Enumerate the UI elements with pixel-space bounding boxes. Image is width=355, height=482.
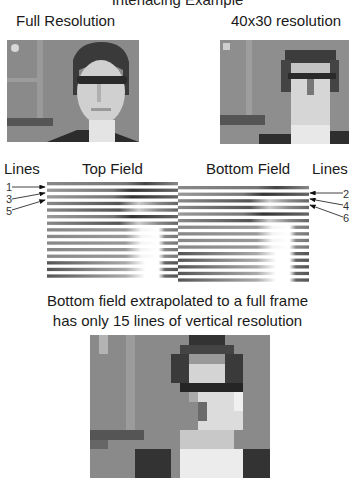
top-field-label: Top Field: [82, 160, 143, 177]
extrapolated-field-image: [90, 335, 270, 478]
top-field-stripes-graphic: [47, 182, 178, 282]
low-resolution-label: 40x30 resolution: [231, 12, 341, 29]
portrait-extrapolated-graphic: [90, 335, 270, 478]
caption-line-1: Bottom field extrapolated to a full fram…: [0, 291, 355, 310]
arrow-icon: [310, 205, 343, 217]
full-resolution-image: [7, 40, 139, 142]
caption-line-2: has only 15 lines of vertical resolution: [0, 311, 355, 330]
low-resolution-image: [220, 40, 349, 144]
lines-label-left: Lines: [4, 160, 40, 177]
bottom-field-image: [178, 186, 309, 286]
bottom-field-label: Bottom Field: [206, 160, 290, 177]
arrow-icon: [12, 193, 45, 199]
bottom-field-stripes-graphic: [178, 186, 309, 286]
left-line-arrows: [0, 180, 48, 220]
full-resolution-label: Full Resolution: [16, 12, 115, 29]
top-field-image: [47, 182, 178, 282]
lines-label-right: Lines: [312, 160, 348, 177]
clipped-title: Interlacing Example: [0, 0, 355, 8]
right-line-arrows: [307, 185, 347, 225]
portrait-low-res-graphic: [220, 40, 349, 144]
portrait-full-res-graphic: [7, 40, 139, 142]
arrow-icon: [12, 200, 45, 210]
arrow-icon: [310, 199, 343, 205]
